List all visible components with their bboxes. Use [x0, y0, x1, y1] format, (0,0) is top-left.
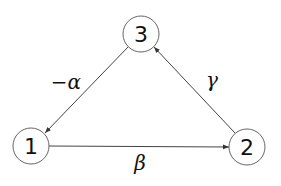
node-2-label: 2 [240, 135, 254, 160]
edge-1-to-2 [49, 146, 229, 147]
node-1: 1 [13, 128, 49, 164]
node-3-label: 3 [134, 22, 148, 47]
edge-2-to-3 [154, 47, 235, 133]
node-1-label: 1 [24, 134, 38, 159]
node-3: 3 [123, 16, 159, 52]
node-2: 2 [229, 129, 265, 165]
edge-label-beta: β [133, 151, 146, 175]
edge-label-minus-alpha: −α [51, 70, 82, 94]
edge-label-gamma: γ [206, 68, 218, 92]
graph-diagram: 3 1 2 −α β γ [0, 0, 281, 186]
